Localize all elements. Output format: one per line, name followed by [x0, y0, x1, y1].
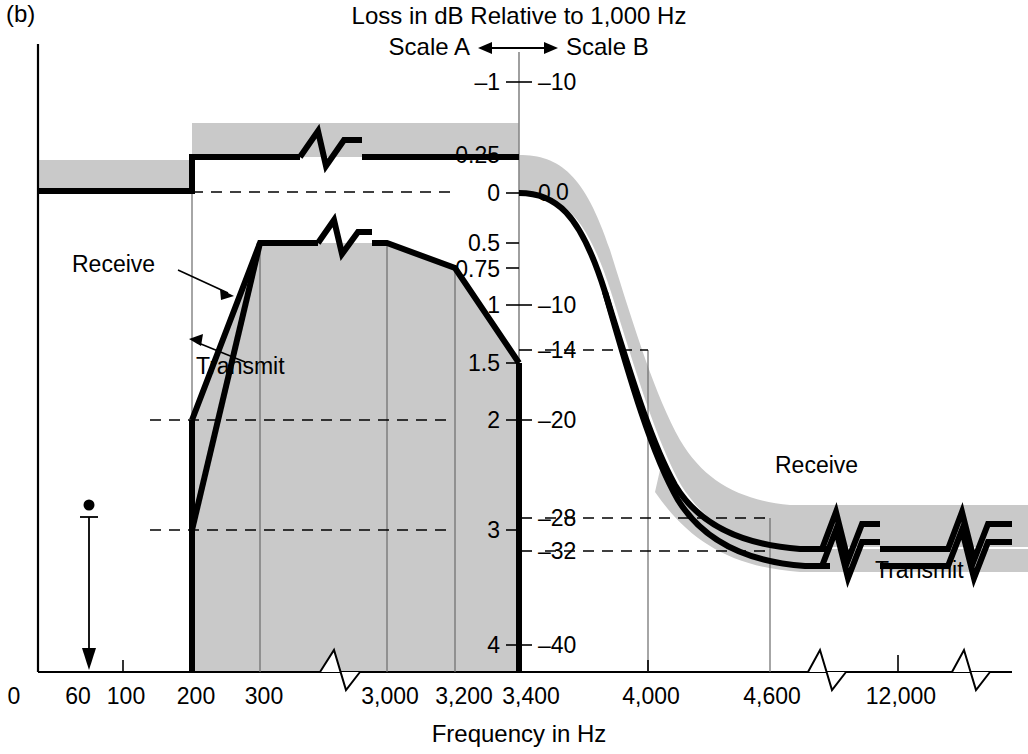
- chart-title: Loss in dB Relative to 1,000 Hz: [352, 2, 687, 29]
- label-a-1_5: 1.5: [468, 350, 500, 376]
- label-b--14: –14: [538, 337, 577, 363]
- scale-a-label: Scale A: [389, 33, 470, 60]
- xlabel-60: 60: [65, 683, 91, 709]
- xlabel-4600: 4,600: [743, 683, 801, 709]
- label-b--40: –40: [538, 632, 576, 658]
- xlabel-3000: 3,000: [361, 683, 419, 709]
- label-b--10-top: –10: [538, 69, 576, 95]
- label-a-0_5: 0.5: [468, 230, 500, 256]
- annotation-receive-right-label: Receive: [775, 452, 858, 478]
- xlabel-12000: 12,000: [866, 683, 936, 709]
- label-b--32: –32: [538, 538, 576, 564]
- x-axis-title: Frequency in Hz: [432, 720, 607, 747]
- scale-b-label: Scale B: [566, 33, 649, 60]
- label-b--28: –28: [538, 505, 576, 531]
- annotation-receive-left-label: Receive: [72, 251, 155, 277]
- annotation-transmit-left-label: Transmit: [196, 353, 285, 379]
- xlabel-100: 100: [107, 683, 145, 709]
- shade-upper-left: [38, 160, 192, 191]
- loss-vs-frequency-chart: –1 –0.25 0 0.5 0.75 1 1.5 2 3 4 –10 0 –1…: [0, 0, 1028, 754]
- label-a-0: 0: [487, 180, 500, 206]
- label-a-4: 4: [487, 632, 500, 658]
- label-a-3: 3: [487, 517, 500, 543]
- panel-label: (b): [6, 0, 35, 27]
- label-b--20: –20: [538, 407, 576, 433]
- shade-passband-mask: [192, 243, 519, 672]
- xlabel-0: 0: [8, 683, 21, 709]
- label-a--1: –1: [474, 69, 500, 95]
- xlabel-200: 200: [177, 683, 215, 709]
- rolloff-zero-label: 0: [556, 179, 569, 205]
- annotation-transmit-right-label: Transmit: [875, 557, 964, 583]
- marker-60hz-dot: [84, 500, 95, 511]
- xlabel-4000: 4,000: [622, 683, 680, 709]
- label-b--10: –10: [538, 292, 576, 318]
- xlabel-3200: 3,200: [435, 683, 493, 709]
- xlabel-3400: 3,400: [502, 683, 560, 709]
- label-a-2: 2: [487, 407, 500, 433]
- xlabel-300: 300: [245, 683, 283, 709]
- figure-root: –1 –0.25 0 0.5 0.75 1 1.5 2 3 4 –10 0 –1…: [0, 0, 1028, 754]
